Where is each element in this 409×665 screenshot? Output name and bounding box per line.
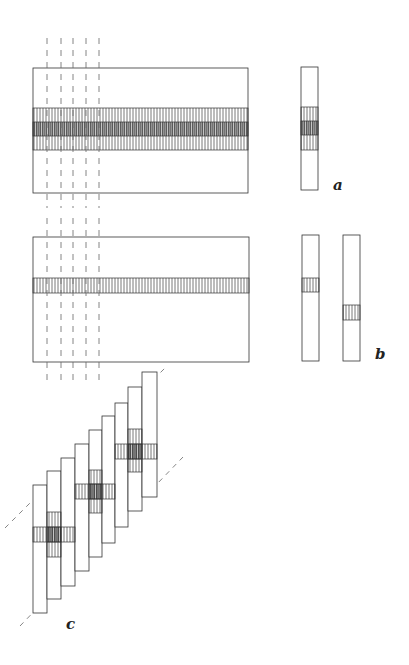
strip-b-2-band [343,305,360,320]
band-inner-a [33,122,248,136]
panel-a [33,67,318,193]
strip-c-3 [61,458,75,586]
panel-label-b: b [375,347,386,362]
strip-c-9 [142,372,157,497]
vertical-dashed-guides [47,38,99,382]
cross-center-3 [128,444,142,459]
panel-label-c: c [66,617,75,632]
strip-a-inner-band [301,121,318,135]
strip-b-1 [302,235,319,361]
panel-b [33,235,360,362]
diagram-canvas [0,0,409,665]
band-b [33,278,249,293]
strip-b-1-band [302,278,319,292]
strip-c-4 [75,444,89,571]
gel-rect-b [33,237,249,362]
cross-center-2 [89,484,102,499]
panel-label-a: a [333,178,343,193]
strip-c-1 [33,485,47,613]
strip-b-2 [343,235,360,361]
cross-center-1 [47,527,61,542]
strip-c-6 [102,416,115,543]
panel-c [5,367,183,626]
strip-c-7 [115,403,128,527]
